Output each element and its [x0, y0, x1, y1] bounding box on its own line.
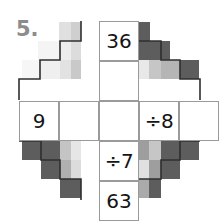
decoration-block [180, 60, 199, 79]
grid-cell-blank[interactable] [179, 101, 219, 141]
decoration-block [71, 60, 81, 79]
decoration-block [60, 160, 71, 179]
decoration-block [161, 160, 180, 179]
decoration-block [59, 41, 71, 60]
grid-cell-blank[interactable] [99, 61, 139, 101]
decoration-block [22, 60, 40, 79]
decoration-block [60, 60, 71, 79]
problem-number-label: 5. [16, 19, 39, 40]
decoration-block [71, 22, 81, 41]
decoration-block [149, 141, 161, 160]
decoration-block [138, 179, 149, 198]
decoration-block [138, 160, 149, 179]
grid-cell-operator[interactable]: ÷7 [99, 141, 139, 181]
decoration-block [38, 41, 59, 60]
decoration-block [60, 141, 71, 160]
decoration-block [40, 60, 60, 79]
decoration-block [161, 141, 180, 160]
decoration-block [71, 179, 81, 198]
decoration-block [71, 141, 81, 160]
decoration-block [161, 60, 180, 79]
decoration-block [180, 141, 199, 160]
grid-cell-number[interactable]: 63 [99, 181, 139, 221]
decoration-block [149, 60, 161, 79]
decoration-block [71, 160, 81, 179]
grid-cell-operator[interactable]: ÷8 [139, 101, 179, 141]
decoration-block [138, 141, 149, 160]
grid-cell-number[interactable]: 9 [19, 101, 59, 141]
decoration-block [138, 41, 150, 60]
decoration-block [150, 41, 170, 60]
puzzle-container: 5. 369÷8÷763 [0, 0, 219, 222]
decoration-block [59, 22, 71, 41]
decoration-block [22, 141, 41, 160]
decoration-block [71, 41, 81, 60]
decoration-block [138, 22, 150, 41]
grid-cell-blank[interactable] [99, 101, 139, 141]
decoration-block [149, 160, 161, 179]
grid-cell-number[interactable]: 36 [99, 21, 139, 61]
decoration-block [41, 141, 60, 160]
decoration-block [41, 160, 60, 179]
decoration-block [60, 179, 71, 198]
decoration-block [138, 60, 149, 79]
grid-cell-blank[interactable] [59, 101, 99, 141]
decoration-block [149, 179, 161, 198]
